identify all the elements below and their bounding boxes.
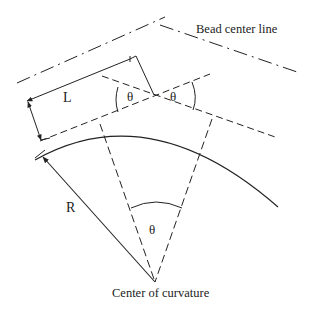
theta-right-label: θ — [170, 89, 176, 105]
bead-curvature-diagram: Bead center line L θ θ R θ Center of cur… — [0, 0, 313, 310]
diagram-graphics — [0, 0, 313, 310]
length-dimension — [27, 56, 154, 140]
bead-center-line-label: Bead center line — [196, 22, 277, 37]
length-label: L — [63, 90, 72, 106]
theta-arc-center — [131, 202, 182, 208]
tangent-lines — [40, 74, 278, 141]
curved-surface-arc — [35, 136, 278, 207]
theta-left-label: θ — [127, 89, 133, 105]
radial-lines — [100, 119, 212, 282]
theta-center-label: θ — [149, 222, 155, 238]
radius-arrow — [43, 157, 155, 282]
radius-label: R — [66, 200, 75, 216]
center-of-curvature-label: Center of curvature — [112, 286, 209, 301]
